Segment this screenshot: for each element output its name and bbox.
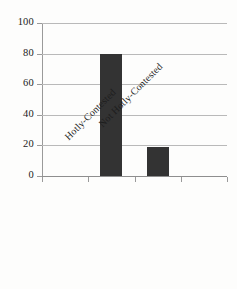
y-tick-40 [37,115,42,116]
plot-area [42,23,227,176]
x-tick-edge-4 [227,177,228,182]
x-tick-1 [88,177,89,182]
x-tick-3 [181,177,182,182]
gridline-80 [42,54,227,55]
y-tick-20 [37,145,42,146]
y-tick-label-20: 20 [2,139,34,150]
y-tick-label-0: 0 [2,170,34,181]
gridline-40 [42,115,227,116]
y-tick-label-80: 80 [2,48,34,59]
y-tick-label-100: 100 [2,17,34,28]
y-tick-label-60: 60 [2,78,34,89]
gridline-20 [42,145,227,146]
bar-chart: 020406080100 Hotly-ContestedNot Hotly-Co… [0,0,237,289]
bar-1 [147,147,169,176]
y-tick-80 [37,54,42,55]
x-tick-edge-0 [42,177,43,182]
y-tick-100 [37,23,42,24]
y-tick-60 [37,84,42,85]
x-tick-2 [135,177,136,182]
y-tick-label-40: 40 [2,109,34,120]
gridline-100 [42,23,227,24]
